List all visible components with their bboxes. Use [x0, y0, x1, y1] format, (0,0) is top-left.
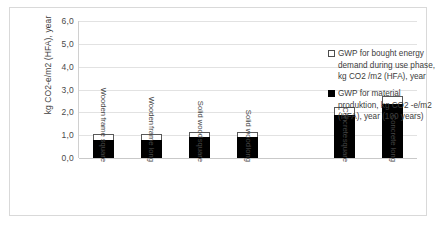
x-axis-label-slot: Woodenframe square [79, 160, 127, 216]
x-axis-label-slot: Solid woodsquare [176, 160, 224, 216]
legend-item-label: GWP for material produktion, kg CO2 -e/m… [338, 88, 438, 123]
x-axis-category-label-line: long [243, 148, 253, 162]
x-axis-category-label: Solid woodsquare [195, 101, 205, 162]
x-axis-category-label: Solid woodlong [243, 109, 253, 162]
x-axis-category-label-line: square [195, 139, 205, 162]
y-axis-tick-label: 3,0 [40, 85, 74, 95]
y-axis-tick-label: 5,0 [40, 39, 74, 49]
x-axis-category-label-line: Wooden [146, 97, 156, 125]
x-axis-category-label-line: square [339, 139, 349, 162]
x-axis-category-label-line: Solid wood [195, 101, 205, 138]
y-axis-tick-label: 0,0 [40, 153, 74, 163]
chart-frame: kg CO2-e/m2 (HFA), year 6,05,04,03,02,01… [9, 7, 427, 216]
filled-square-icon [328, 90, 335, 97]
x-axis-label-slot: Woodenframe long [127, 160, 175, 216]
open-square-icon [328, 50, 335, 57]
bar-slot [272, 21, 320, 158]
y-axis-tick-label: 1,0 [40, 130, 74, 140]
x-axis-category-label: Woodenframe long [146, 97, 156, 162]
x-axis-category-label-line: frame square [98, 117, 108, 162]
x-axis-label-slot: Concrete long [369, 160, 417, 216]
x-axis-category-label-line: Solid wood [243, 109, 253, 146]
x-axis-category-labels: Woodenframe squareWoodenframe longSolid … [79, 160, 417, 216]
x-axis-category-label-line: frame long [146, 126, 156, 162]
y-axis-tick-label: 2,0 [40, 107, 74, 117]
chart-legend: GWP for bought energy demand during use … [328, 48, 438, 128]
x-axis-label-slot [272, 160, 320, 216]
x-axis-category-label-line: Wooden [98, 88, 108, 116]
y-axis-tick-label: 4,0 [40, 62, 74, 72]
legend-item[interactable]: GWP for material produktion, kg CO2 -e/m… [328, 88, 438, 123]
x-axis-label-slot: Solid woodlong [224, 160, 272, 216]
x-axis-category-label: Woodenframe square [98, 88, 108, 162]
x-axis-label-slot: Concretesquare [320, 160, 368, 216]
y-axis-tick-label: 6,0 [40, 16, 74, 26]
legend-item[interactable]: GWP for bought energy demand during use … [328, 48, 438, 83]
legend-item-label: GWP for bought energy demand during use … [338, 48, 438, 83]
